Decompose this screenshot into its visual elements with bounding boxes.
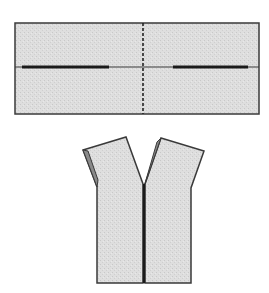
- vest-left-panel: [83, 137, 143, 283]
- flat-fabric-rectangle: [15, 23, 259, 114]
- finished-vest: [83, 137, 204, 283]
- pattern-diagram: [0, 0, 269, 293]
